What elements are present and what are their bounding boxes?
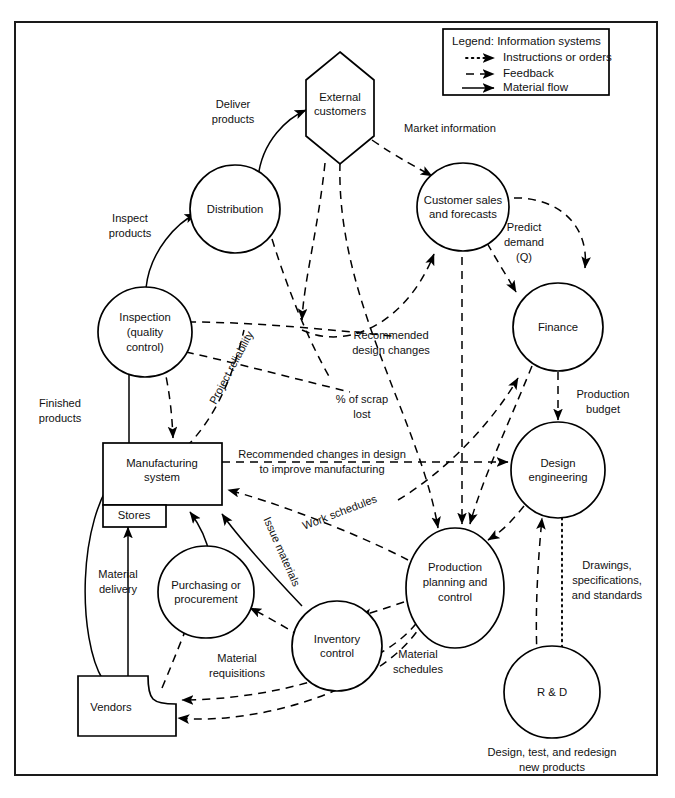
caption-line2: new products: [519, 761, 585, 773]
legend-item-material-flow: Material flow: [503, 80, 569, 93]
node-manufacturing-system[interactable]: Manufacturing system: [103, 443, 222, 505]
node-finance[interactable]: Finance: [513, 283, 603, 371]
edge-inspection-scrap-lost: [186, 352, 350, 392]
legend-item-instructions: Instructions or orders: [503, 50, 612, 63]
edge-inventory-control-to-purchasing: [250, 608, 300, 636]
label-scrap-lost-line2: lost: [353, 408, 370, 420]
node-rnd-label: R & D: [537, 686, 567, 698]
node-vendors-label: Vendors: [90, 701, 132, 713]
node-inspection-label-line2: (quality: [127, 326, 164, 338]
label-material-requisitions-line1: Material: [217, 652, 256, 664]
label-production-budget-line1: Production: [576, 388, 629, 400]
caption-line1: Design, test, and redesign: [488, 746, 617, 758]
label-finished-products-line1: Finished: [39, 397, 81, 409]
label-material-schedules-line2: schedules: [393, 663, 443, 675]
label-finished-products-line2: products: [39, 412, 82, 424]
node-external-customers-label-line1: External: [319, 91, 360, 103]
label-material-delivery-line1: Material: [98, 568, 137, 580]
legend: Legend: Information systems Instructions…: [443, 29, 612, 95]
edge-distribution-to-external-customers: [258, 110, 306, 178]
edge-external-customers-to-mid: [302, 163, 325, 320]
label-recommended-design-changes-line2: design changes: [352, 344, 430, 356]
node-manufacturing-system-label-line1: Manufacturing: [126, 457, 198, 469]
edge-customer-sales-loop-to-finance: [500, 198, 585, 268]
node-design-engineering-label-line1: Design: [540, 457, 575, 469]
label-predict-demand-line1: Predict: [507, 221, 542, 233]
node-inventory-control[interactable]: Inventory control: [292, 601, 382, 691]
label-recommended-changes-line2: to improve manufacturing: [259, 463, 384, 475]
node-purchasing-label-line2: procurement: [174, 593, 238, 605]
edge-design-engineering-to-production-planning: [488, 506, 524, 540]
edge-to-customer-sales-feedback: [302, 254, 434, 337]
node-design-engineering[interactable]: Design engineering: [511, 422, 605, 518]
label-material-delivery-line2: delivery: [99, 583, 138, 595]
node-customer-sales[interactable]: Customer sales and forecasts: [417, 163, 509, 251]
label-drawings-line1: Drawings,: [582, 559, 631, 571]
node-production-planning-label-line2: planning and: [423, 576, 488, 588]
node-inventory-control-label-line1: Inventory: [314, 633, 361, 645]
node-manufacturing-system-label-line2: system: [144, 471, 180, 483]
label-drawings-line3: and standards: [572, 589, 643, 601]
label-deliver-products-line1: Deliver: [216, 98, 251, 110]
node-distribution[interactable]: Distribution: [190, 165, 280, 253]
label-deliver-products-line2: products: [212, 113, 255, 125]
legend-item-feedback: Feedback: [503, 66, 554, 79]
label-predict-demand-line3: (Q): [516, 251, 532, 263]
node-external-customers[interactable]: External customers: [306, 52, 374, 164]
edge-external-customers-to-customer-sales: [372, 140, 432, 176]
node-rnd[interactable]: R & D: [504, 646, 600, 738]
label-predict-demand-line2: demand: [504, 236, 544, 248]
edge-production-planning-to-finance: [398, 378, 518, 500]
node-inspection-label-line1: Inspection: [119, 311, 171, 323]
node-customer-sales-label-line1: Customer sales: [424, 194, 503, 206]
node-distribution-label: Distribution: [207, 203, 264, 215]
label-drawings-line2: specifications,: [572, 574, 642, 586]
node-inspection[interactable]: Inspection (quality control): [98, 287, 192, 377]
label-project-reliability: Project reliability: [207, 329, 256, 406]
label-recommended-changes-line1: Recommended changes in design: [238, 448, 406, 460]
flow-diagram: External customers Distribution Customer…: [0, 0, 675, 798]
label-production-budget-line2: budget: [586, 403, 620, 415]
edge-inspection-to-distribution: [146, 214, 196, 288]
node-finance-label: Finance: [538, 321, 578, 333]
label-material-schedules-line1: Material: [398, 648, 437, 660]
node-external-customers-label-line2: customers: [314, 105, 366, 117]
node-stores[interactable]: Stores: [103, 505, 166, 527]
node-purchasing-label-line1: Purchasing or: [171, 579, 241, 591]
edge-customer-sales-to-finance-predict-demand: [487, 243, 516, 292]
node-production-planning-label-line1: Production: [428, 561, 482, 573]
label-recommended-design-changes-line1: Recommended: [353, 329, 428, 341]
diagram-canvas: External customers Distribution Customer…: [0, 0, 675, 798]
node-vendors[interactable]: Vendors: [78, 676, 176, 736]
label-inspect-products-line1: Inspect: [112, 212, 148, 224]
node-purchasing[interactable]: Purchasing or procurement: [158, 546, 254, 638]
node-stores-label: Stores: [118, 509, 151, 521]
label-market-information: Market information: [404, 122, 496, 134]
label-scrap-lost-line1: % of scrap: [336, 393, 388, 405]
label-inspect-products-line2: products: [109, 227, 152, 239]
legend-title: Legend: Information systems: [452, 34, 601, 47]
label-material-requisitions-line2: requisitions: [209, 667, 266, 679]
label-work-schedules: Work schedules: [301, 492, 379, 532]
node-inventory-control-label-line2: control: [320, 647, 354, 659]
node-production-planning-label-line3: control: [438, 591, 472, 603]
label-issue-materials: Issue materials: [261, 515, 302, 588]
node-design-engineering-label-line2: engineering: [528, 471, 587, 483]
node-inspection-label-line3: control): [126, 341, 164, 353]
node-production-planning[interactable]: Production planning and control: [406, 528, 504, 648]
node-customer-sales-label-line2: and forecasts: [429, 208, 497, 220]
edge-distribution-feedback: [272, 239, 330, 378]
